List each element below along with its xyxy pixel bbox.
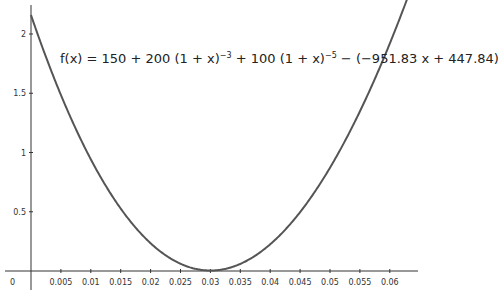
formula-part: − (−951.83 x + 447.84) bbox=[337, 51, 499, 66]
y-tick-label: 1.5 bbox=[13, 89, 26, 98]
axes: 00.0050.010.0150.020.0250.030.0350.040.0… bbox=[5, 5, 418, 290]
x-tick-label: 0.035 bbox=[229, 278, 252, 287]
x-tick-label: 0.025 bbox=[169, 278, 192, 287]
x-tick-label: 0.03 bbox=[201, 278, 219, 287]
function-formula: f(x) = 150 + 200 (1 + x)−3 + 100 (1 + x)… bbox=[60, 51, 499, 66]
x-tick-label: 0.02 bbox=[142, 278, 160, 287]
formula-exponent: −3 bbox=[220, 51, 232, 60]
y-tick-label: 2 bbox=[21, 30, 26, 39]
x-tick-label: 0.06 bbox=[381, 278, 399, 287]
x-tick-label: 0.05 bbox=[321, 278, 339, 287]
x-tick-label: 0.005 bbox=[49, 278, 72, 287]
x-tick-label: 0.04 bbox=[261, 278, 279, 287]
x-tick-label: 0 bbox=[10, 278, 15, 287]
x-tick-label: 0.055 bbox=[348, 278, 371, 287]
formula-part: + 100 (1 + x) bbox=[232, 51, 325, 66]
y-tick-label: 1 bbox=[21, 149, 26, 158]
formula-lhs: f(x) bbox=[60, 51, 82, 66]
x-tick-label: 0.01 bbox=[82, 278, 100, 287]
function-curve bbox=[31, 0, 410, 271]
formula-exponent: −5 bbox=[325, 51, 337, 60]
x-tick-label: 0.045 bbox=[289, 278, 312, 287]
formula-part: = 150 + 200 (1 + x) bbox=[82, 51, 219, 66]
y-tick-label: 0.5 bbox=[13, 208, 26, 217]
x-tick-label: 0.015 bbox=[109, 278, 132, 287]
